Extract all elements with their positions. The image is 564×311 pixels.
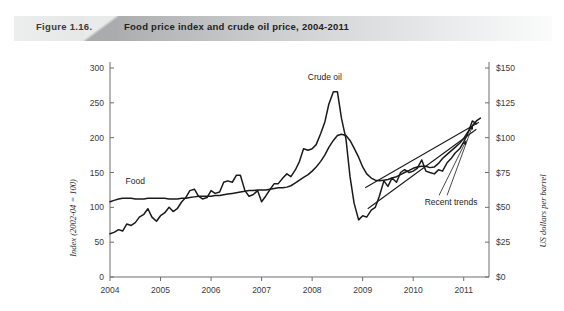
series-line-crude-oil (110, 92, 476, 234)
y-axis-left-tick-label: 250 (90, 98, 104, 108)
y-axis-left-ticks (110, 68, 114, 277)
y-axis-left-tick-label: 0 (99, 272, 104, 282)
y-axis-left-tick-label: 150 (90, 168, 104, 178)
y-axis-left-tick-labels: 050100150200250300 (90, 63, 104, 282)
y-axis-right-tick-label: $150 (496, 63, 515, 73)
y-axis-right-tick-label: $25 (496, 237, 510, 247)
annotation-crude-oil: Crude oil (308, 72, 342, 82)
y-axis-right-tick-label: $125 (496, 98, 515, 108)
x-axis-tick-label: 2010 (404, 285, 423, 295)
y-axis-left-tick-label: 300 (90, 63, 104, 73)
leader-line-upper (447, 125, 473, 195)
x-axis-tick-label: 2006 (202, 285, 221, 295)
figure-number: Figure 1.16. (36, 21, 92, 32)
x-axis-tick-label: 2011 (455, 285, 474, 295)
line-chart: 050100150200250300 $0$25$50$75$100$125$1… (0, 46, 564, 296)
y-axis-left-tick-label: 200 (90, 133, 104, 143)
x-axis-tick-label: 2007 (252, 285, 271, 295)
x-axis-tick-label: 2004 (101, 285, 120, 295)
y-axis-right-tick-label: $100 (496, 133, 515, 143)
y-axis-right-tick-label: $75 (496, 168, 510, 178)
series-line-food (110, 118, 480, 202)
y-axis-left-tick-label: 50 (95, 237, 105, 247)
y-axis-right-tick-labels: $0$25$50$75$100$125$150 (496, 63, 515, 282)
annotation-food: Food (126, 176, 146, 186)
x-axis-tick-labels: 20042005200620072008200920102011 (101, 285, 474, 295)
y-axis-left-tick-label: 100 (90, 202, 104, 212)
y-axis-right-title: US dollars per barrel (538, 174, 548, 248)
figure-banner: Figure 1.16. Food price index and crude … (14, 16, 552, 41)
x-axis-ticks (110, 277, 464, 281)
y-axis-right-tick-label: $50 (496, 202, 510, 212)
chart-container: 050100150200250300 $0$25$50$75$100$125$1… (0, 46, 564, 296)
annotation-recent-trends: Recent trends (425, 197, 478, 207)
figure-title: Food price index and crude oil price, 20… (124, 21, 349, 32)
x-axis-tick-label: 2009 (353, 285, 372, 295)
x-axis-tick-label: 2008 (303, 285, 322, 295)
y-axis-right-tick-label: $0 (496, 272, 506, 282)
y-axis-right-ticks (485, 68, 489, 277)
x-axis-tick-label: 2005 (151, 285, 170, 295)
y-axis-left-title: Index (2002-04 = 100) (68, 179, 78, 258)
